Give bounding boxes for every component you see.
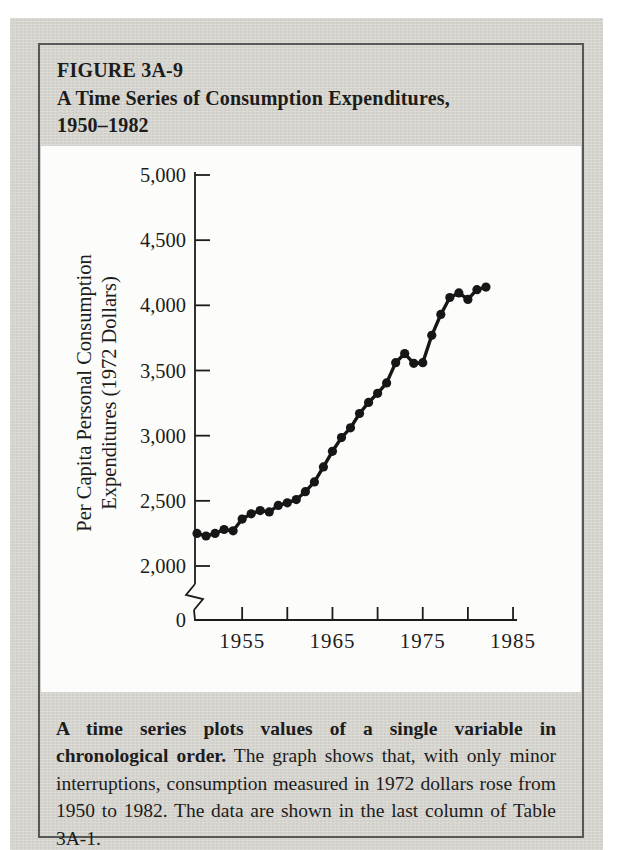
figure-caption: A time series plots values of a single v… xyxy=(56,715,556,850)
figure-header: FIGURE 3A-9 A Time Series of Consumption… xyxy=(57,57,562,140)
scanned-textbook-page: { "header": { "figure_label": "FIGURE 3A… xyxy=(0,0,621,850)
figure-box: FIGURE 3A-9 A Time Series of Consumption… xyxy=(38,43,584,838)
figure-title-line2: 1950–1982 xyxy=(57,112,562,140)
figure-label: FIGURE 3A-9 xyxy=(57,57,562,85)
chart-panel xyxy=(41,146,581,692)
figure-title-line1: A Time Series of Consumption Expenditure… xyxy=(57,85,562,113)
